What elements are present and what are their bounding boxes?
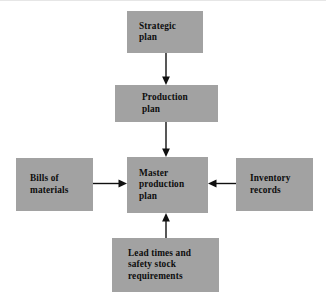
- node-lead-times-and-safety-stock-requirements: Lead times and safety stock requirements: [112, 238, 219, 292]
- arrow-bills-to-master: [93, 180, 127, 188]
- node-inventory-records: Inventory records: [236, 158, 313, 211]
- node-strategic-plan: Strategic plan: [127, 11, 203, 53]
- arrow-strategic-to-production: [162, 53, 170, 85]
- page-edge-line: [0, 0, 326, 1]
- arrow-inventory-to-master: [208, 180, 236, 188]
- node-bills-of-materials: Bills of materials: [16, 158, 93, 211]
- arrow-production-to-master: [162, 122, 170, 157]
- node-master-production-plan: Master production plan: [127, 157, 208, 213]
- arrow-leadtimes-to-master: [162, 213, 170, 238]
- node-production-plan: Production plan: [115, 85, 218, 122]
- diagram-canvas: Strategic plan Production plan Master pr…: [0, 0, 326, 299]
